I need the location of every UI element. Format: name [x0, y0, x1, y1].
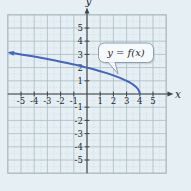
axes [8, 12, 170, 174]
x-tick-label: 3 [124, 96, 129, 106]
x-axis-label: x [175, 88, 181, 100]
y-tick-label: -3 [75, 129, 83, 139]
x-tick-label: -3 [43, 96, 51, 106]
y-tick-label: 5 [77, 23, 82, 33]
coordinate-plane: xy-5-4-3-2-11234554321-1-2-3-4-5y = f(x) [0, 0, 191, 191]
callout-text: y = f(x) [106, 47, 145, 58]
y-tick-label: -1 [75, 102, 83, 112]
y-axis-label: y [85, 0, 93, 7]
y-tick-label: -2 [75, 116, 83, 126]
x-tick-label: 5 [150, 96, 155, 106]
y-axis-arrow [85, 8, 90, 14]
y-tick-label: 1 [77, 76, 82, 86]
y-tick-label: 2 [77, 63, 82, 73]
x-tick-label: 4 [137, 96, 142, 106]
curve-arrowhead [7, 51, 14, 56]
graph-figure: xy-5-4-3-2-11234554321-1-2-3-4-5y = f(x) [0, 0, 191, 191]
x-tick-label: -4 [30, 96, 38, 106]
y-tick-label: 4 [77, 36, 82, 46]
x-tick-label: 2 [111, 96, 116, 106]
y-tick-label: -4 [75, 142, 83, 152]
x-tick-label: 1 [97, 96, 102, 106]
y-tick-label: -5 [75, 155, 83, 165]
x-tick-label: -2 [56, 96, 64, 106]
x-axis-arrow [167, 92, 173, 97]
x-tick-label: -5 [17, 96, 25, 106]
y-tick-label: 3 [77, 50, 82, 60]
